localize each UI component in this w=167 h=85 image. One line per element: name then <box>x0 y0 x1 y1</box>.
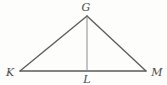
segment-side-GM <box>87 16 146 71</box>
vertex-label-L: L <box>83 74 90 85</box>
vertex-label-M: M <box>151 67 162 78</box>
segment-side-KG <box>20 16 87 71</box>
geometry-figure: G K L M <box>0 0 167 84</box>
vertex-label-K: K <box>6 67 14 78</box>
vertex-label-G: G <box>82 2 91 13</box>
